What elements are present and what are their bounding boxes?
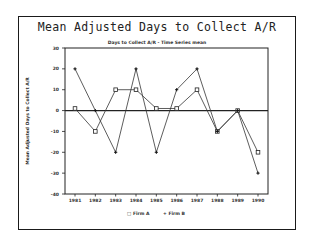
- square-marker-icon: [175, 107, 179, 111]
- series-line-firm-b: [75, 69, 258, 173]
- y-tick-label: -20: [51, 150, 59, 155]
- x-tick-label: 1981: [69, 198, 82, 203]
- legend-firm-b: + Firm B: [163, 211, 185, 216]
- y-tick-label: 0: [56, 108, 59, 113]
- plus-marker-icon: [256, 172, 259, 175]
- x-tick-label: 1985: [150, 198, 163, 203]
- y-tick-label: 20: [53, 66, 59, 71]
- square-marker-icon: [73, 107, 77, 111]
- x-tick-label: 1987: [191, 198, 204, 203]
- x-tick-label: 1982: [89, 198, 102, 203]
- x-tick-label: 1990: [252, 198, 265, 203]
- plus-marker-icon: [94, 109, 97, 112]
- legend-firm-a: □ Firm A: [127, 211, 149, 216]
- square-marker-icon: [155, 107, 159, 111]
- square-marker-icon: [195, 88, 199, 92]
- y-tick-label: 30: [53, 46, 59, 51]
- square-marker-icon: [134, 88, 138, 92]
- x-tick-label: 1986: [170, 198, 183, 203]
- axes: 3020100-10-20-30-40198119821983198419851…: [51, 46, 268, 204]
- square-marker-icon: [114, 88, 118, 92]
- y-tick-label: -10: [51, 129, 59, 134]
- square-marker-icon: [94, 130, 98, 134]
- plot-area: 3020100-10-20-30-40198119821983198419851…: [0, 0, 312, 247]
- x-tick-label: 1989: [231, 198, 244, 203]
- square-marker-icon: [256, 150, 260, 154]
- plus-marker-icon: [134, 67, 137, 70]
- plus-marker-icon: [155, 151, 158, 154]
- plus-marker-icon: [114, 151, 117, 154]
- y-tick-label: -40: [51, 192, 59, 197]
- x-tick-label: 1988: [211, 198, 224, 203]
- plus-marker-icon: [73, 67, 76, 70]
- x-tick-label: 1984: [130, 198, 143, 203]
- data-series: [73, 67, 260, 174]
- x-tick-label: 1983: [109, 198, 122, 203]
- y-tick-label: -30: [51, 171, 59, 176]
- legend: □ Firm A + Firm B: [0, 211, 312, 216]
- y-tick-label: 10: [53, 87, 59, 92]
